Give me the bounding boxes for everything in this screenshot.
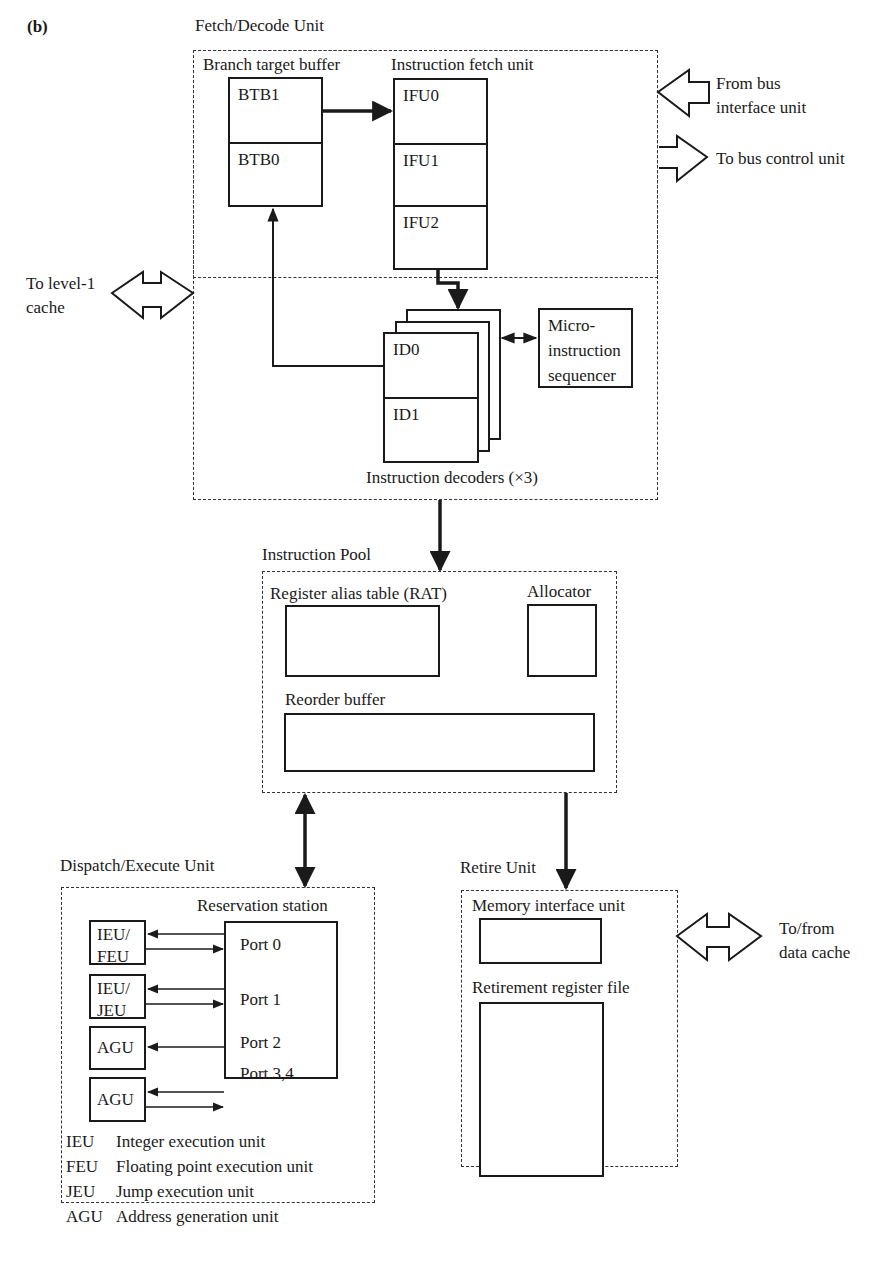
data-cache-double-arrow-icon [677, 914, 761, 960]
ifu2-cell: IFU2 [395, 207, 486, 270]
to-bus-control-label: To bus control unit [716, 149, 845, 169]
memory-interface-unit-label: Memory interface unit [472, 896, 625, 916]
port-3-4: Port 3,4 [240, 1064, 294, 1084]
to-level1-cache-label: To level-1 cache [26, 272, 95, 320]
instruction-decoders-label: Instruction decoders (×3) [366, 468, 538, 488]
memory-interface-unit [479, 918, 602, 964]
branch-target-buffer: BTB1 BTB0 [228, 77, 323, 207]
to-from-data-cache-label: To/from data cache [779, 917, 850, 965]
register-alias-table [285, 605, 440, 677]
legend-ieu: IEUInteger execution unit [66, 1132, 265, 1152]
from-bus-interface-label: From bus interface unit [716, 72, 806, 120]
reorder-buffer-label: Reorder buffer [285, 690, 385, 710]
to-bus-control-arrow-icon [659, 136, 707, 181]
microinstruction-sequencer: Micro- instruction sequencer [538, 308, 633, 388]
btb1-cell: BTB1 [230, 79, 321, 144]
panel-label: (b) [27, 17, 48, 37]
instruction-pool-title: Instruction Pool [262, 545, 371, 565]
btb0-cell: BTB0 [230, 144, 321, 207]
ifu1-cell: IFU1 [395, 145, 486, 207]
id1-cell: ID1 [385, 399, 477, 463]
allocator-label: Allocator [527, 582, 591, 602]
branch-target-buffer-label: Branch target buffer [203, 55, 340, 75]
execution-unit-agu-port2: AGU [89, 1026, 146, 1070]
execution-unit-agu-port34: AGU [89, 1077, 146, 1122]
from-bus-interface-arrow-icon [658, 70, 709, 116]
retirement-register-file-label: Retirement register file [472, 978, 630, 998]
instruction-decoder: ID0 ID1 [383, 332, 479, 463]
reorder-buffer [284, 713, 595, 772]
rat-label: Register alias table (RAT) [270, 584, 447, 604]
reservation-station: Port 0 Port 1 Port 2 Port 3,4 [224, 921, 338, 1079]
ifu0-cell: IFU0 [395, 80, 486, 145]
execution-unit-ieu-feu: IEU/ FEU [89, 920, 146, 965]
retirement-register-file [479, 1002, 604, 1177]
level1-cache-double-arrow-icon [112, 272, 193, 318]
reservation-station-label: Reservation station [197, 896, 328, 916]
dispatch-execute-unit-title: Dispatch/Execute Unit [60, 856, 214, 876]
fetch-decode-unit-title: Fetch/Decode Unit [195, 16, 324, 36]
port-2: Port 2 [240, 1033, 281, 1053]
legend-feu: FEUFloating point execution unit [66, 1157, 313, 1177]
port-0: Port 0 [240, 935, 281, 955]
allocator [527, 604, 597, 677]
port-1: Port 1 [240, 990, 281, 1010]
legend-agu: AGUAddress generation unit [66, 1207, 278, 1227]
instruction-fetch-unit: IFU0 IFU1 IFU2 [393, 78, 488, 270]
execution-unit-ieu-jeu: IEU/ JEU [89, 974, 146, 1019]
id0-cell: ID0 [385, 334, 477, 399]
retire-unit-title: Retire Unit [460, 858, 536, 878]
legend-jeu: JEUJump execution unit [66, 1182, 254, 1202]
instruction-fetch-unit-label: Instruction fetch unit [391, 55, 534, 75]
